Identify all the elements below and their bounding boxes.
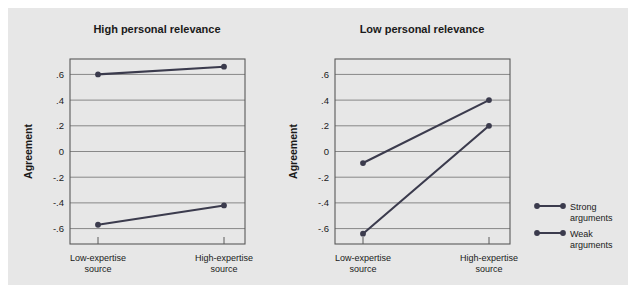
- series-line: [363, 126, 489, 234]
- series-line: [363, 100, 489, 163]
- x-tick-label: Low-expertise: [335, 253, 391, 263]
- chart-panel-1: High personal relevanceAgreement.6.4.20-…: [22, 23, 253, 274]
- data-point: [360, 231, 366, 237]
- data-point: [221, 203, 227, 209]
- x-tick-label: source: [475, 264, 502, 274]
- legend-label: arguments: [570, 213, 613, 223]
- series-line: [98, 205, 224, 224]
- y-tick-label: -.2: [318, 172, 329, 183]
- y-tick-label: .6: [56, 69, 64, 80]
- data-point: [360, 160, 366, 166]
- x-tick-label: Low-expertise: [70, 253, 126, 263]
- y-tick-label: 0: [59, 146, 64, 157]
- data-point: [95, 72, 101, 78]
- y-tick-label: -.6: [318, 223, 329, 234]
- y-tick-label: -.4: [318, 197, 329, 208]
- y-axis-title: Agreement: [287, 124, 299, 179]
- x-tick-label: High-expertise: [195, 253, 253, 263]
- legend-swatch-dot: [560, 203, 566, 209]
- y-tick-label: -.4: [53, 197, 64, 208]
- y-tick-label: .6: [321, 69, 329, 80]
- y-tick-label: .4: [321, 95, 329, 106]
- y-tick-label: .2: [56, 120, 64, 131]
- y-tick-label: .4: [56, 95, 64, 106]
- legend-swatch-dot: [534, 230, 540, 236]
- legend-label: Weak: [570, 229, 593, 239]
- data-point: [486, 97, 492, 103]
- legend-label: arguments: [570, 240, 613, 250]
- y-axis-title: Agreement: [22, 124, 34, 179]
- panel-title: High personal relevance: [93, 23, 220, 35]
- x-tick-label: source: [210, 264, 237, 274]
- y-tick-label: -.6: [53, 223, 64, 234]
- legend: StrongargumentsWeakarguments: [534, 202, 613, 250]
- y-tick-label: -.2: [53, 172, 64, 183]
- chart-panel-2: Low personal relevanceAgreement.6.4.20-.…: [287, 23, 518, 274]
- legend-swatch-dot: [534, 203, 540, 209]
- x-tick-label: source: [349, 264, 376, 274]
- data-point: [221, 64, 227, 70]
- series-line: [98, 67, 224, 75]
- panel-title: Low personal relevance: [360, 23, 485, 35]
- figure-container: High personal relevanceAgreement.6.4.20-…: [0, 0, 637, 304]
- y-tick-label: .2: [321, 120, 329, 131]
- legend-swatch-dot: [560, 230, 566, 236]
- x-tick-label: High-expertise: [460, 253, 518, 263]
- y-tick-label: 0: [324, 146, 329, 157]
- legend-label: Strong: [570, 202, 597, 212]
- data-point: [95, 222, 101, 228]
- chart-canvas: High personal relevanceAgreement.6.4.20-…: [0, 0, 637, 304]
- x-tick-label: source: [84, 264, 111, 274]
- data-point: [486, 123, 492, 129]
